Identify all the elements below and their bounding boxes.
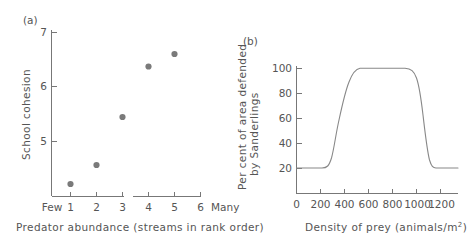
- panel-a-x-axis-title: Predator abundance (streams in rank orde…: [16, 221, 264, 233]
- panel-b-ytick-label-60: 60: [279, 112, 292, 124]
- panel-b-response-curve: [297, 68, 459, 168]
- panel-a: (a) 7 6 5 School cohesion Few 1: [16, 14, 264, 233]
- panel-a-xtick-label-6: 6: [197, 201, 204, 213]
- panel-b-xtick-label-800: 800: [382, 198, 402, 210]
- datapoint: [171, 51, 177, 57]
- panel-a-ytick-label-5: 5: [40, 135, 47, 147]
- panel-b-xtick-label-1200: 1200: [428, 198, 455, 210]
- datapoint: [93, 162, 99, 168]
- panel-a-ytick-label-7: 7: [40, 26, 47, 38]
- panel-a-xtick-label-few: Few: [42, 201, 63, 213]
- panel-b-ytick-label-100: 100: [272, 62, 292, 74]
- panel-b-xtick-label-0: 0: [293, 198, 300, 210]
- panel-b-x-axis-title-main: Density of prey (animals/m: [305, 221, 458, 233]
- panel-a-ytick-label-6: 6: [40, 80, 47, 92]
- panel-a-datapoints: [67, 51, 177, 187]
- panel-a-xtick-label-2: 2: [93, 201, 100, 213]
- figure-svg: (a) 7 6 5 School cohesion Few 1: [0, 0, 467, 240]
- panel-b-xtick-label-200: 200: [310, 198, 330, 210]
- panel-b-y-axis-title-line1: Per cent of area defended: [236, 44, 248, 190]
- panel-a-xtick-label-many: Many: [211, 201, 239, 213]
- panel-b-ytick-label-40: 40: [279, 137, 292, 149]
- panel-b-x-axis-title: Density of prey (animals/m2): [305, 221, 467, 233]
- panel-a-xtick-label-1: 1: [67, 201, 74, 213]
- panel-a-xtick-label-5: 5: [171, 201, 178, 213]
- panel-b-ytick-label-20: 20: [279, 162, 292, 174]
- panel-b-ytick-label-80: 80: [279, 87, 292, 99]
- panel-b: (b) 100 80 60 40 20 Per cent of area def…: [236, 35, 467, 233]
- panel-b-xtick-label-1000: 1000: [404, 198, 431, 210]
- figure-container: (a) 7 6 5 School cohesion Few 1: [0, 0, 467, 240]
- panel-a-xtick-label-4: 4: [145, 201, 152, 213]
- panel-b-xtick-label-400: 400: [334, 198, 354, 210]
- panel-b-y-axis-title-line2: by Sanderlings: [248, 92, 260, 176]
- panel-a-y-axis-title: School cohesion: [20, 69, 32, 160]
- panel-b-xtick-label-600: 600: [358, 198, 378, 210]
- datapoint: [67, 181, 73, 187]
- datapoint: [119, 114, 125, 120]
- panel-a-xtick-label-3: 3: [119, 201, 126, 213]
- panel-a-label: (a): [23, 14, 38, 26]
- panel-b-x-axis-title-tail: ): [463, 221, 467, 233]
- datapoint: [145, 63, 151, 69]
